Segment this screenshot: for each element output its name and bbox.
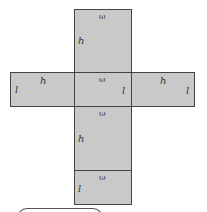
- label-lower-width: ω: [99, 110, 106, 118]
- label-left-length: l: [15, 85, 18, 95]
- partial-rounded-shape: [17, 208, 103, 212]
- label-left-height: h: [40, 76, 46, 86]
- label-center-length: l: [122, 86, 125, 96]
- label-right-length: l: [186, 86, 189, 96]
- label-bottom-width: ω: [99, 174, 106, 182]
- label-lower-height: h: [78, 134, 84, 144]
- label-center-width: ω: [99, 76, 106, 84]
- label-bottom-length: l: [78, 184, 81, 194]
- label-top-height: h: [78, 36, 84, 46]
- label-right-height: h: [160, 76, 166, 86]
- label-top-width: ω: [99, 13, 106, 21]
